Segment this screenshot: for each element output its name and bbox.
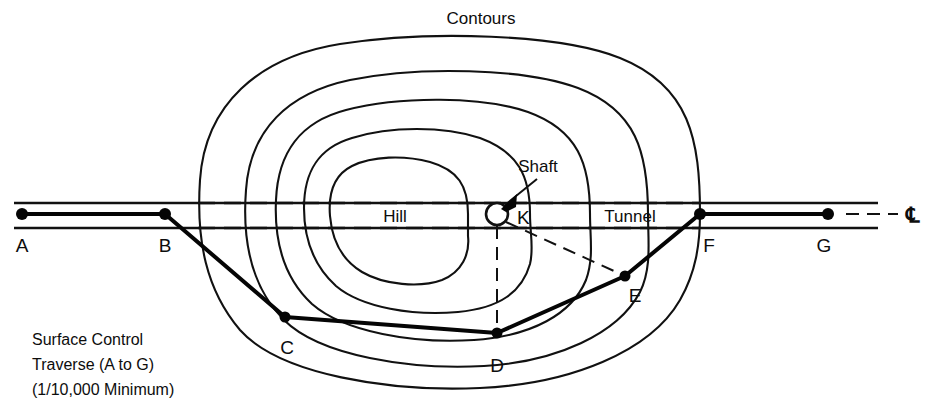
station-label-d: D <box>490 355 504 376</box>
station-dot-e <box>620 271 631 282</box>
surface-control-traverse <box>22 214 828 333</box>
station-dot-f <box>694 208 706 220</box>
hill-label: Hill <box>383 207 407 226</box>
station-dot-b <box>159 208 171 220</box>
contour-line-3 <box>276 100 591 341</box>
station-dot-d <box>492 328 503 339</box>
caption-line-1: Surface Control <box>32 331 143 348</box>
station-label-g: G <box>817 235 832 256</box>
contour-line-2 <box>245 71 648 367</box>
tunnel-label: Tunnel <box>604 207 655 226</box>
station-dot-c <box>280 312 291 323</box>
shaft-sightlines <box>497 222 625 333</box>
sightline-k-to-e <box>506 222 625 276</box>
station-label-b: B <box>159 235 172 256</box>
station-dot-a <box>16 208 28 220</box>
station-label-e: E <box>629 285 642 306</box>
station-label-a: A <box>16 235 29 256</box>
station-dot-g <box>822 208 834 220</box>
caption-line-3: (1/10,000 Minimum) <box>32 381 174 398</box>
station-label-f: F <box>703 235 715 256</box>
centerline-symbol: ℄ <box>905 203 920 227</box>
station-label-k: K <box>517 207 530 228</box>
survey-diagram: Contours Hill Shaft Tunnel K A B C D E F… <box>0 0 944 413</box>
caption-line-2: Traverse (A to G) <box>32 356 154 373</box>
contours-label: Contours <box>447 9 516 28</box>
shaft-label: Shaft <box>518 157 558 176</box>
station-label-c: C <box>280 337 294 358</box>
